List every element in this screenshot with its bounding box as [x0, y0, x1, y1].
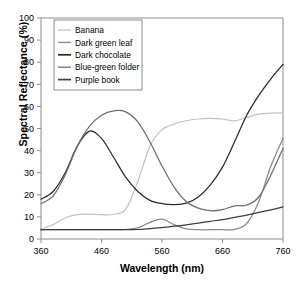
legend-label: Blue-green folder: [75, 62, 139, 72]
y-tick-label: 100: [19, 13, 34, 23]
series-line-purple-book: [41, 207, 283, 230]
x-tick-label: 360: [33, 246, 48, 256]
x-tick-label: 760: [275, 246, 290, 256]
spectral-reflectance-plot: 0102030405060708090100360460560660760 Ba…: [0, 0, 298, 283]
series-line-dark-green-leaf: [41, 138, 283, 229]
y-tick-label: 60: [24, 102, 34, 112]
y-tick-label: 30: [24, 168, 34, 178]
y-tick-label: 10: [24, 212, 34, 222]
y-tick-label: 50: [24, 124, 34, 134]
y-tick-label: 80: [24, 57, 34, 67]
x-tick-label: 560: [154, 246, 169, 256]
series-line-blue-green-folder: [41, 110, 283, 210]
chart-legend: BananaDark green leafDark chocolateBlue-…: [54, 20, 142, 90]
y-tick-label: 90: [24, 35, 34, 45]
legend-label: Dark green leaf: [75, 38, 133, 48]
x-tick-label: 660: [215, 246, 230, 256]
legend-label: Banana: [75, 25, 104, 35]
y-tick-label: 70: [24, 80, 34, 90]
series-line-banana: [41, 113, 283, 229]
legend-label: Purple book: [75, 75, 121, 85]
y-tick-label: 40: [24, 146, 34, 156]
x-tick-label: 460: [94, 246, 109, 256]
y-tick-label: 20: [24, 190, 34, 200]
legend-label: Dark chocolate: [75, 50, 131, 60]
y-tick-label: 0: [29, 234, 34, 244]
chart-figure: Spectral Reflectance (%) Wavelength (nm)…: [0, 0, 298, 283]
